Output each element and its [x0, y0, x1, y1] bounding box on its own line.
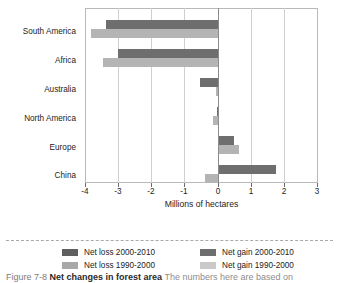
category-label-africa: Africa: [55, 56, 76, 65]
xtick-label--1: -1: [180, 187, 187, 196]
bar-south-america-2000-2010: [106, 20, 218, 29]
category-label-north-america: North America: [24, 114, 76, 123]
bar-south-america-1990-2000: [91, 29, 218, 38]
bar-australia-2000-2010: [200, 78, 218, 87]
figure-caption-title: Net changes in forest area: [50, 272, 163, 282]
bar-africa-2000-2010: [118, 49, 218, 58]
bar-china-1990-2000: [205, 174, 218, 183]
bar-europe-1990-2000: [219, 145, 239, 154]
x-axis-title: Millions of hectares: [85, 199, 318, 209]
gridline-zero: [218, 8, 219, 183]
gridline-2: [284, 8, 285, 183]
bar-australia-1990-2000: [216, 87, 218, 96]
legend-divider: [6, 240, 333, 241]
bar-north-america-1990-2000: [213, 116, 218, 125]
category-axis-labels: South America Africa Australia North Ame…: [0, 8, 80, 183]
chart-axes: [85, 8, 318, 183]
bar-china-2000-2010: [219, 165, 276, 174]
xtick-label-1: 1: [249, 187, 254, 196]
legend-label-net-loss-1990-2000: Net loss 1990-2000: [84, 260, 155, 271]
category-label-south-america: South America: [23, 27, 76, 36]
bar-africa-1990-2000: [103, 58, 218, 67]
category-label-europe: Europe: [50, 143, 76, 152]
xtick-label--2: -2: [147, 187, 154, 196]
legend-swatch-icon-net-gain-1990-2000: [200, 262, 216, 269]
gridline-1: [251, 8, 252, 183]
xtick-label-3: 3: [315, 187, 320, 196]
bar-north-america-2000-2010: [217, 107, 218, 116]
chart-legend: Net loss 2000-2010 Net gain 2000-2010 Ne…: [0, 247, 339, 271]
legend-swatch-icon-net-loss-1990-2000: [62, 262, 78, 269]
legend-swatch-icon-net-loss-2000-2010: [62, 249, 78, 256]
legend-label-net-gain-2000-2010: Net gain 2000-2010: [222, 247, 294, 258]
xtick-label-2: 2: [282, 187, 287, 196]
x-axis-ticks: -4 -3 -2 -1 0 1 2 3: [85, 184, 318, 198]
figure-caption-text: The numbers here are based on: [164, 272, 293, 282]
category-label-china: China: [55, 171, 76, 180]
chart-plot-area: South America Africa Australia North Ame…: [0, 0, 339, 196]
figure-caption: Figure 7-8 Net changes in forest area Th…: [6, 272, 339, 283]
xtick-label--4: -4: [81, 187, 88, 196]
xtick-label--3: -3: [114, 187, 121, 196]
legend-label-net-gain-1990-2000: Net gain 1990-2000: [222, 260, 294, 271]
bar-europe-2000-2010: [219, 136, 234, 145]
xtick-label-0: 0: [216, 187, 221, 196]
legend-swatch-icon-net-gain-2000-2010: [200, 249, 216, 256]
category-label-australia: Australia: [44, 85, 76, 94]
figure-caption-number: Figure 7-8: [6, 272, 47, 282]
legend-label-net-loss-2000-2010: Net loss 2000-2010: [84, 247, 155, 258]
